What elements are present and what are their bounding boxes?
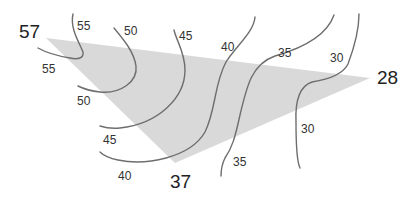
contour-label-35: 35 xyxy=(278,46,292,60)
contour-label-30: 30 xyxy=(301,122,315,136)
contour-label-55: 55 xyxy=(42,62,56,76)
contour-label-50: 50 xyxy=(124,24,138,38)
triangle-region xyxy=(46,38,370,163)
contour-diagram: 55 55 50 50 45 45 40 40 35 35 30 30 57 2… xyxy=(0,0,420,198)
vertex-label-bottom: 37 xyxy=(170,171,191,192)
vertex-label-right: 28 xyxy=(377,67,398,88)
contour-label-40: 40 xyxy=(221,40,235,54)
vertex-label-top-left: 57 xyxy=(19,21,40,42)
contour-label-40: 40 xyxy=(118,169,132,183)
contour-label-35: 35 xyxy=(233,155,247,169)
contour-label-45: 45 xyxy=(103,133,117,147)
contour-label-45: 45 xyxy=(179,29,193,43)
contour-label-55: 55 xyxy=(77,19,91,33)
contour-label-50: 50 xyxy=(77,94,91,108)
contour-label-30: 30 xyxy=(330,51,344,65)
